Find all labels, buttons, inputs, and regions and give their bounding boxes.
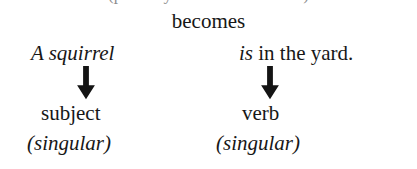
grammar-diagram-figure: (partially cut off line of text) becomes… [0,0,417,169]
verb-phrase-roman: in the yard. [253,41,353,65]
subject-role-label: subject [41,99,100,127]
verb-phrase: is in the yard. [239,40,353,66]
subject-number-label: (singular) [27,128,111,158]
down-arrow-icon [255,66,285,100]
becomes-label: becomes [0,9,417,33]
diagram-columns: A squirrel subject (singular) is in the … [0,40,417,169]
verb-number-label: (singular) [216,128,300,158]
verb-phrase-italic: is [239,41,253,65]
verb-role-label: verb [242,99,279,127]
subject-phrase: A squirrel [31,40,114,66]
subject-phrase-italic: A squirrel [31,41,114,65]
clipped-top-text-line: (partially cut off line of text) [0,0,417,6]
down-arrow-icon [71,66,101,100]
